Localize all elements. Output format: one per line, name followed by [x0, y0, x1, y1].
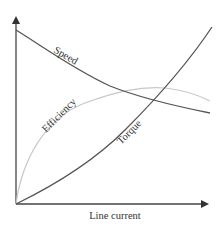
- efficiency-curve: [16, 88, 210, 204]
- speed-curve: [16, 30, 210, 113]
- torque-label: Torque: [115, 117, 144, 146]
- torque-curve: [16, 27, 212, 204]
- speed-label: Speed: [52, 44, 80, 67]
- motor-characteristics-chart: Speed Efficiency Torque Line current: [0, 0, 223, 228]
- x-axis-label: Line current: [89, 210, 141, 221]
- efficiency-label: Efficiency: [40, 95, 79, 134]
